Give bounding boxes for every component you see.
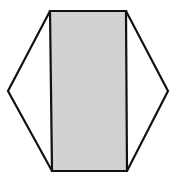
shaded-rectangle <box>50 11 127 171</box>
hexagon-diagram <box>0 0 180 178</box>
